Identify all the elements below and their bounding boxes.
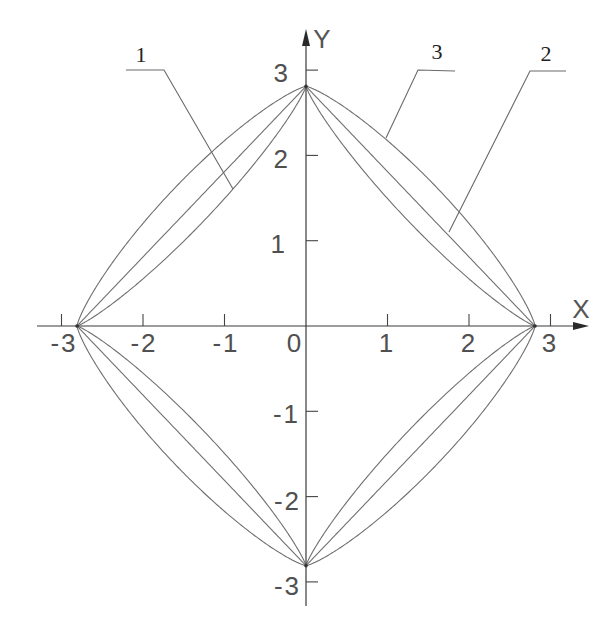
y-tick-label: -3 — [274, 571, 301, 601]
curve-meeting-point — [75, 324, 79, 328]
x-tick-label: 1 — [379, 328, 395, 358]
curve-figure: -3 -2 -1 0 1 2 3 X 3 2 1 -1 -2 -3 Y 1 3 … — [0, 0, 616, 634]
y-axis-title: Y — [313, 24, 330, 54]
callout-leader-line — [126, 70, 233, 189]
x-axis: -3 -2 -1 0 1 2 3 X — [37, 294, 590, 358]
callout-label: 2 — [541, 41, 552, 66]
x-tick-label: -1 — [212, 328, 239, 358]
y-axis-arrow-icon — [302, 29, 310, 46]
curve-meeting-point — [304, 85, 308, 89]
callout-label: 1 — [136, 42, 147, 67]
x-axis-title: X — [572, 294, 589, 324]
x-tick-label: 0 — [287, 328, 303, 358]
callout-leader-line — [386, 70, 455, 138]
curve-meeting-point — [304, 564, 308, 568]
x-tick-label: -2 — [130, 328, 157, 358]
y-axis: 3 2 1 -1 -2 -3 Y — [271, 24, 331, 606]
curve-meeting-point — [533, 324, 537, 328]
x-tick-label: -3 — [50, 328, 77, 358]
y-tick-label: -1 — [273, 399, 300, 429]
callout-2: 2 — [449, 41, 566, 232]
callout-label: 3 — [432, 39, 443, 64]
y-tick-label: 1 — [271, 229, 287, 259]
callout-leader-line — [449, 71, 566, 232]
callout-1: 1 — [126, 42, 233, 189]
y-tick-label: 2 — [274, 144, 290, 174]
callout-3: 3 — [386, 39, 455, 138]
y-tick-label: 3 — [274, 58, 290, 88]
y-tick-label: -2 — [274, 486, 301, 516]
x-tick-label: 2 — [461, 328, 477, 358]
x-tick-label: 3 — [542, 328, 558, 358]
